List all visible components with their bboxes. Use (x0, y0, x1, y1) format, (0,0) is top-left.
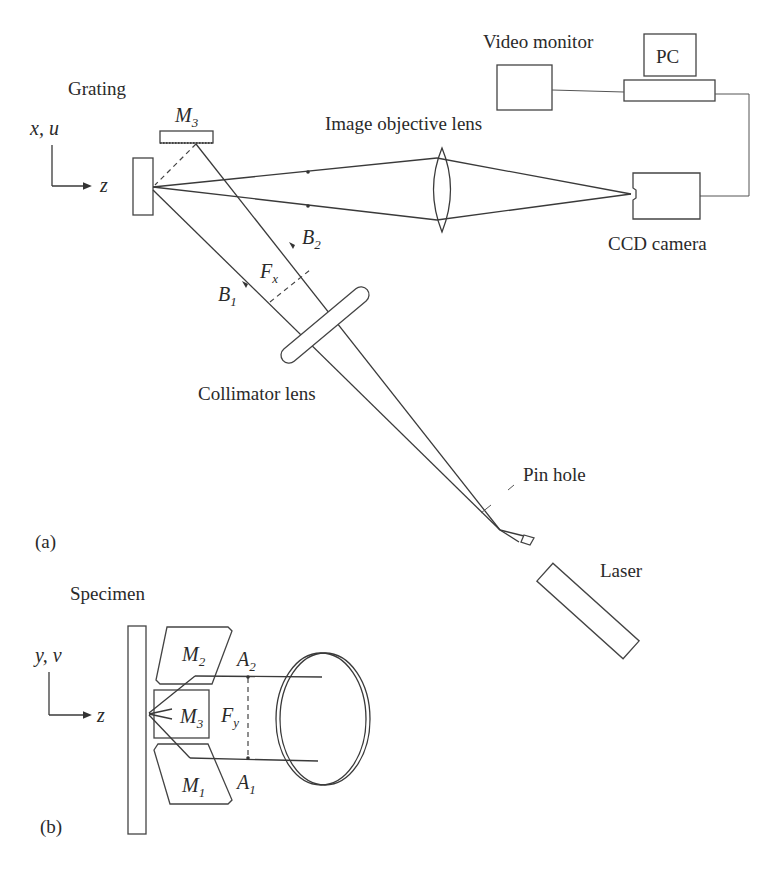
panel-b-label: (b) (40, 816, 62, 838)
laser: Laser (537, 560, 643, 659)
pin-hole-label: Pin hole (523, 464, 586, 485)
axis-yv: y, v z (33, 644, 105, 726)
grating: Grating (68, 78, 153, 215)
image-objective-lens: Image objective lens (325, 113, 482, 232)
mirror-m2: M2 (156, 627, 232, 684)
video-monitor: Video monitor (483, 31, 594, 110)
axis-xu: x, u z (29, 117, 108, 196)
a1-label: A1 (235, 771, 256, 797)
axis-label-xu: x, u (29, 117, 59, 139)
pc-label: PC (656, 46, 679, 67)
specimen: Specimen (70, 583, 146, 834)
b2-label: B2 (302, 226, 321, 252)
grating-label: Grating (68, 78, 127, 99)
image-objective-lens-label: Image objective lens (325, 113, 482, 134)
specimen-label: Specimen (70, 583, 145, 604)
fy-label: Fy (220, 704, 239, 730)
collimator-lens-label: Collimator lens (198, 383, 316, 404)
m3-label: M3 (174, 104, 199, 130)
panel-a-label: (a) (35, 531, 56, 553)
video-monitor-label: Video monitor (483, 31, 594, 52)
ccd-camera-label: CCD camera (608, 233, 707, 254)
pc: PC (552, 34, 749, 196)
axis-label-z-b: z (96, 704, 105, 726)
b1-label: B1 (218, 283, 237, 309)
collimating-lens-b (276, 653, 370, 785)
imaging-beams (153, 158, 631, 220)
mirror-m3-b: M3 (154, 690, 209, 738)
illumination-beams (153, 144, 500, 530)
pin-hole: Pin hole (481, 464, 586, 545)
mirror-m3: M3 (160, 104, 213, 143)
mirror-m1: M1 (154, 744, 232, 804)
axis-label-yv: y, v (33, 644, 62, 667)
moire-interferometer-diagram: x, u z Grating M3 Image objective lens (0, 0, 781, 872)
laser-label: Laser (600, 560, 643, 581)
ccd-camera: CCD camera (608, 173, 707, 254)
axis-label-z: z (99, 174, 108, 196)
fx-label: Fx (259, 260, 278, 286)
a2-label: A2 (235, 648, 256, 674)
panel-b: y, v z Specimen M2 M3 M1 (33, 583, 370, 838)
panel-a: x, u z Grating M3 Image objective lens (29, 31, 749, 659)
